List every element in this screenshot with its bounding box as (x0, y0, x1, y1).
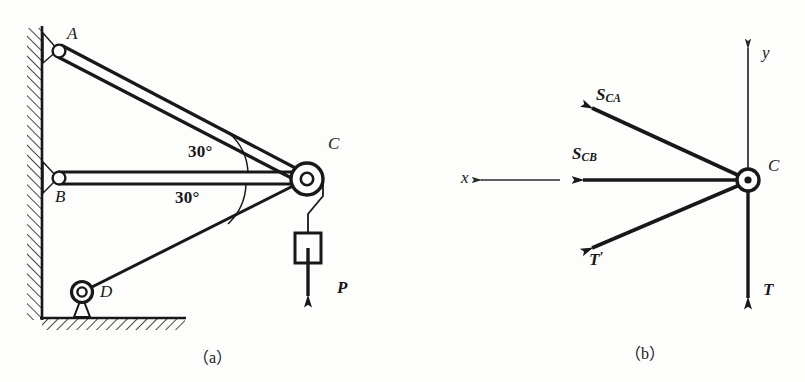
force-vector-sca (592, 108, 742, 177)
wall-support (27, 26, 42, 320)
axis-label-y: y (762, 43, 770, 63)
node-c-panel-b (737, 169, 759, 191)
joint-d-support (72, 282, 93, 318)
force-label-sca-subscript: CA (605, 92, 621, 104)
joint-b-pin (53, 172, 66, 185)
force-label-scb-subscript: CB (581, 151, 597, 163)
force-vector-t-prime (592, 184, 742, 248)
axis-label-x: x (461, 168, 469, 188)
figure-svg (0, 0, 805, 382)
force-label-scb: SCB (572, 144, 597, 164)
panel-b-caption: （b） (625, 340, 665, 364)
force-label-sca: SCA (596, 85, 621, 105)
force-label-t: T (763, 280, 773, 300)
joint-a-pin (53, 45, 66, 58)
load-label-p: P (337, 278, 347, 298)
panel-a-caption: （a） (193, 344, 232, 368)
figure-container: A B C D 30° 30° P （a） y x C SCA SCB T′ T… (0, 0, 805, 382)
joint-label-d: D (100, 282, 112, 302)
node-label-c-panel-b: C (768, 156, 779, 176)
joint-label-b: B (55, 187, 65, 207)
member-bc (58, 172, 303, 184)
force-label-t-prime-mark: ′ (599, 250, 603, 265)
angle-label-lower: 30° (175, 188, 199, 208)
ground-support (40, 318, 186, 330)
joint-label-c: C (328, 134, 339, 154)
force-label-t-prime: T′ (589, 250, 603, 270)
force-label-t-prime-symbol: T (589, 250, 599, 269)
angle-label-upper: 30° (188, 142, 212, 162)
member-ac (58, 45, 303, 183)
joint-c-pulley (291, 163, 323, 195)
joint-label-a: A (67, 24, 77, 44)
